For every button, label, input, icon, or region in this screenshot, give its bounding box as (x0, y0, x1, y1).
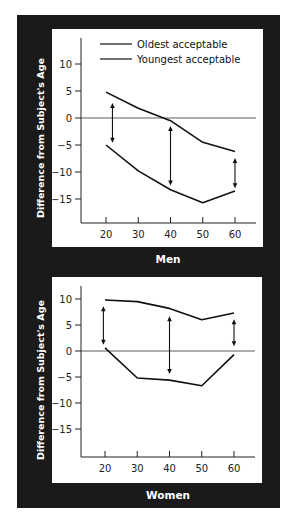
y-tick-label: −10 (51, 398, 72, 409)
x-tick-label: 20 (100, 229, 113, 240)
x-tick-label: 50 (196, 229, 209, 240)
y-tick-label: 10 (59, 59, 72, 70)
x-tick-label: 60 (228, 463, 241, 474)
y-tick-label: 10 (59, 294, 72, 305)
x-tick-label: 30 (131, 463, 144, 474)
women-chart-panel: Difference from Subject's Age 1050−5−10−… (35, 277, 262, 501)
y-tick-label: −15 (51, 424, 72, 435)
y-tick-label: −5 (57, 140, 72, 151)
x-tick-label: 20 (99, 463, 112, 474)
y-tick-label: 0 (66, 113, 72, 124)
men-panel-title: Men (155, 253, 180, 265)
age-preference-figure: Difference from Subject's Age Oldest acc… (0, 0, 294, 522)
x-tick-label: 60 (229, 229, 242, 240)
y-tick-label: −10 (51, 167, 72, 178)
y-tick-label: −5 (57, 372, 72, 383)
x-tick-label: 40 (163, 463, 176, 474)
y-tick-label: 5 (66, 86, 72, 97)
x-tick-label: 30 (132, 229, 145, 240)
women-y-axis-label: Difference from Subject's Age (35, 300, 46, 460)
men-y-axis-label: Difference from Subject's Age (35, 58, 46, 218)
y-tick-label: 5 (66, 320, 72, 331)
y-tick-label: 0 (66, 346, 72, 357)
x-tick-label: 40 (164, 229, 177, 240)
y-tick-label: −15 (51, 194, 72, 205)
women-panel-title: Women (146, 489, 190, 501)
legend-label-oldest: Oldest acceptable (137, 39, 227, 50)
x-tick-label: 50 (195, 463, 208, 474)
legend-label-youngest: Youngest acceptable (136, 54, 240, 65)
men-chart-panel: Difference from Subject's Age Oldest acc… (35, 29, 263, 265)
